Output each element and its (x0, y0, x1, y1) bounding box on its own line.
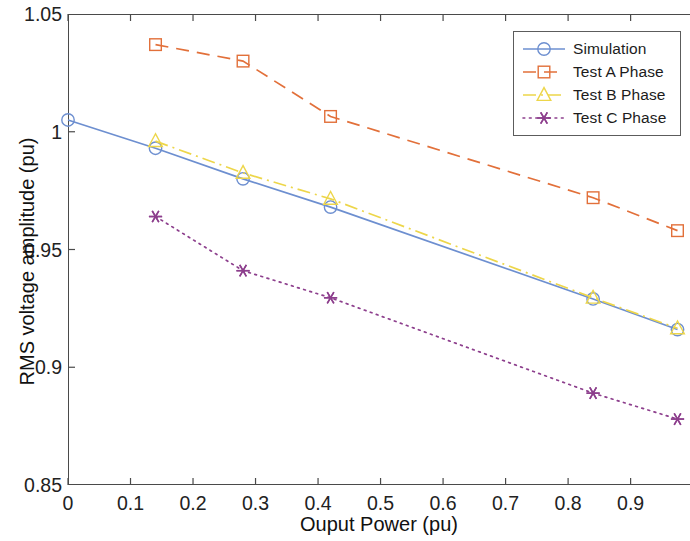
x-tick-label: 0.4 (304, 492, 331, 515)
legend-item-simulation: Simulation (521, 37, 673, 60)
x-tick-label: 0.3 (242, 492, 269, 515)
legend-swatch-test-a-phase (521, 62, 567, 82)
x-tick-label: 0.7 (492, 492, 519, 515)
x-tick-label: 0.9 (617, 492, 644, 515)
legend-swatch-simulation (521, 39, 567, 59)
y-axis-title: RMS voltage amplitude (pu) (16, 47, 39, 477)
legend-item-test-a-phase: Test A Phase (521, 60, 673, 83)
x-tick-label: 0.6 (430, 492, 457, 515)
legend-label-simulation: Simulation (567, 40, 646, 58)
legend-item-test-b-phase: Test B Phase (521, 83, 673, 106)
legend-label-test-c-phase: Test C Phase (567, 109, 666, 127)
chart-figure: 0.850.90.9511.05 00.10.20.30.40.50.60.70… (0, 0, 690, 541)
x-tick-label: 0.1 (117, 492, 144, 515)
x-tick-label: 0.2 (179, 492, 206, 515)
x-tick-label: 0.5 (367, 492, 394, 515)
x-axis-title: Ouput Power (pu) (68, 513, 690, 536)
legend-label-test-b-phase: Test B Phase (567, 86, 666, 104)
legend-swatch-test-c-phase (521, 108, 567, 128)
legend-swatch-test-b-phase (521, 85, 567, 105)
x-tick-label: 0.8 (555, 492, 582, 515)
legend-label-test-a-phase: Test A Phase (567, 63, 664, 81)
x-tick-label: 0 (63, 492, 74, 515)
y-tick-label: 0.85 (0, 474, 62, 497)
y-tick-label: 1.05 (0, 3, 62, 26)
chart-legend: Simulation Test A Phase Test B Phase Tes… (513, 31, 681, 136)
legend-item-test-c-phase: Test C Phase (521, 106, 673, 129)
